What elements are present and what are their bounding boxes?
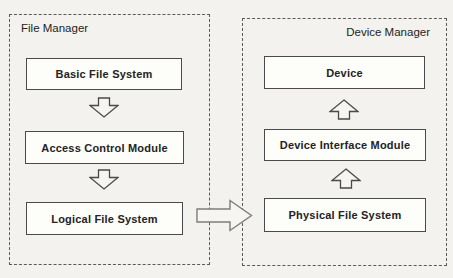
access-control-module-box: Access Control Module: [25, 131, 184, 164]
device-interface-module-box: Device Interface Module: [264, 129, 426, 161]
device-manager-panel: Device Manager Device Device Interface M…: [242, 18, 447, 266]
right-arrow-icon: [196, 199, 253, 232]
device-label: Device: [326, 67, 363, 79]
access-control-module-label: Access Control Module: [41, 142, 167, 154]
device-manager-title: Device Manager: [346, 26, 430, 38]
file-manager-title: File Manager: [21, 22, 88, 34]
device-box: Device: [264, 56, 425, 89]
device-interface-module-label: Device Interface Module: [280, 139, 411, 151]
up-arrow-icon: [329, 99, 359, 120]
down-arrow-icon: [89, 169, 119, 190]
logical-file-system-label: Logical File System: [51, 213, 158, 225]
file-manager-panel: File Manager Basic File System Access Co…: [9, 14, 210, 265]
up-arrow-icon: [331, 168, 361, 189]
basic-file-system-label: Basic File System: [56, 68, 153, 80]
physical-file-system-box: Physical File System: [264, 198, 426, 232]
logical-file-system-box: Logical File System: [26, 202, 183, 235]
down-arrow-icon: [89, 97, 119, 118]
basic-file-system-box: Basic File System: [26, 58, 182, 90]
physical-file-system-label: Physical File System: [289, 209, 402, 221]
